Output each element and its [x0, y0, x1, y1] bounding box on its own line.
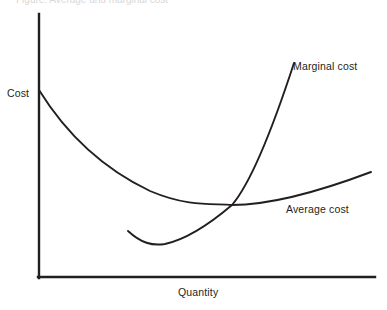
average-cost-curve [39, 90, 371, 205]
marginal-cost-curve [128, 63, 294, 245]
x-axis-label: Quantity [178, 286, 218, 298]
average-cost-label: Average cost [286, 203, 349, 215]
marginal-cost-label: Marginal cost [293, 60, 357, 72]
plot-area [0, 0, 387, 310]
cost-curves-figure: Figure: Average and marginal cost Cost M… [0, 0, 387, 310]
y-axis-label: Cost [7, 87, 29, 99]
